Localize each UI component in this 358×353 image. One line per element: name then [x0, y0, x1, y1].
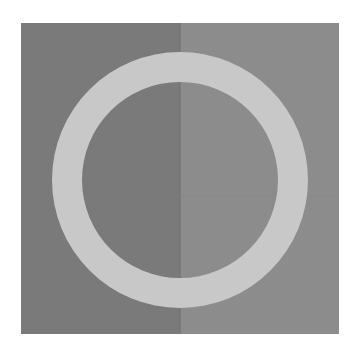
illusion-canvas [0, 0, 358, 353]
illusion-figure [0, 0, 358, 353]
